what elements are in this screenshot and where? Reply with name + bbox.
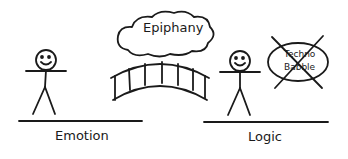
emotion-label: Emotion: [55, 128, 109, 143]
cloud-label: Epiphany: [143, 20, 203, 35]
bridge-icon: [111, 62, 209, 100]
stick-figure-logic: [220, 51, 260, 115]
stick-figure-emotion: [26, 50, 66, 114]
logic-label: Logic: [248, 129, 282, 144]
babble-label: Babble: [284, 62, 315, 72]
techno-label: Techno: [284, 49, 315, 59]
